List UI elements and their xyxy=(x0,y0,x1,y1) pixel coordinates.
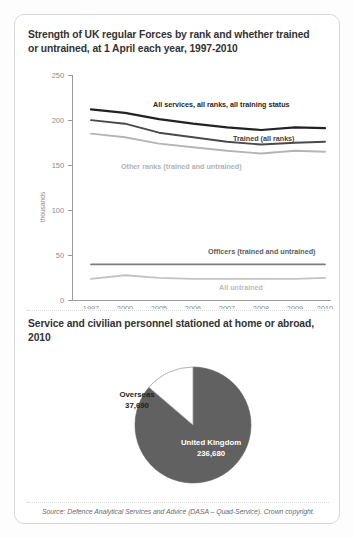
section-divider-top xyxy=(27,310,329,311)
pie-label-united-kingdom-value: 236,680 xyxy=(197,449,226,458)
line-chart: 250 200 150 100 50 0 thousands 1997 2000… xyxy=(15,57,339,309)
series-line-all-untrained xyxy=(91,275,325,279)
series-label-other-ranks: Other ranks (trained and untrained) xyxy=(121,162,242,171)
x-tick-2006: 2006 xyxy=(185,304,201,309)
x-tick-2000: 2000 xyxy=(117,304,133,309)
x-tick-2005: 2005 xyxy=(151,304,167,309)
pie-label-overseas-value: 37,690 xyxy=(125,401,150,410)
page-background: Strength of UK regular Forces by rank an… xyxy=(0,0,354,538)
pie-label-united-kingdom-name: United Kingdom xyxy=(181,438,241,447)
x-tick-2009: 2009 xyxy=(287,304,303,309)
series-label-officers: Officers (trained and untrained) xyxy=(208,247,316,256)
series-line-all-services xyxy=(91,109,325,130)
x-tick-2010: 2010 xyxy=(317,304,333,309)
y-tick-150: 150 xyxy=(52,161,64,170)
y-tick-0: 0 xyxy=(60,296,64,305)
line-chart-svg: 250 200 150 100 50 0 thousands 1997 2000… xyxy=(15,57,339,309)
section-divider-bottom xyxy=(27,502,329,503)
y-axis-title: thousands xyxy=(39,191,46,222)
series-label-all-services: All services, all ranks, all training st… xyxy=(153,100,290,109)
y-tick-250: 250 xyxy=(52,71,64,80)
report-card: Strength of UK regular Forces by rank an… xyxy=(14,14,340,524)
x-tick-2008: 2008 xyxy=(253,304,269,309)
x-tick-2007: 2007 xyxy=(219,304,235,309)
y-axis-ticks xyxy=(68,76,73,301)
y-tick-200: 200 xyxy=(52,116,64,125)
y-tick-50: 50 xyxy=(56,251,64,260)
pie-chart: Overseas 37,690 United Kingdom 236,680 xyxy=(15,337,339,505)
pie-chart-svg: Overseas 37,690 United Kingdom 236,680 xyxy=(15,337,339,505)
pie-label-overseas-name: Overseas xyxy=(119,390,155,399)
series-label-all-untrained: All untrained xyxy=(219,283,263,292)
series-label-trained-all-ranks: Trained (all ranks) xyxy=(233,134,295,143)
y-tick-100: 100 xyxy=(52,206,64,215)
line-chart-title: Strength of UK regular Forces by rank an… xyxy=(28,28,320,56)
x-tick-1997: 1997 xyxy=(83,304,99,309)
source-note: Source: Defence Analytical Services and … xyxy=(42,508,332,515)
